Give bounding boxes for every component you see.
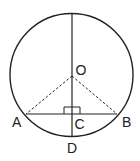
label-b: B: [122, 114, 131, 130]
label-c: C: [75, 116, 85, 132]
radius-ob-dashed: [72, 76, 117, 114]
label-a: A: [12, 114, 22, 130]
geometry-diagram: O A B C D: [0, 0, 140, 161]
label-d: D: [67, 140, 77, 156]
radius-oa-dashed: [26, 76, 72, 114]
label-o: O: [76, 62, 87, 78]
